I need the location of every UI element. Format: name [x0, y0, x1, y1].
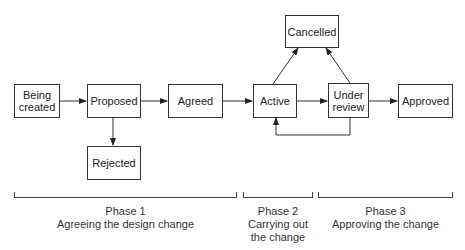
phase-2-description: Carrying out the change — [238, 218, 318, 244]
node-approved: Approved — [398, 84, 453, 118]
phase-3-title: Phase 3 — [318, 205, 453, 218]
edge-active-to-cancelled — [273, 48, 298, 84]
phase-3-label: Phase 3 Approving the change — [318, 205, 453, 231]
phase-2-bracket — [243, 192, 313, 198]
edge-under-review-to-active — [276, 117, 350, 135]
node-proposed: Proposed — [87, 84, 141, 118]
phase-2-title: Phase 2 — [238, 205, 318, 218]
phase-3-bracket — [318, 192, 453, 198]
node-under-review: Under review — [328, 83, 369, 118]
node-rejected: Rejected — [87, 146, 141, 180]
node-agreed: Agreed — [168, 84, 223, 118]
phase-1-bracket — [14, 192, 237, 198]
phase-1-description: Agreeing the design change — [14, 218, 237, 231]
phase-1-title: Phase 1 — [14, 205, 237, 218]
node-active: Active — [253, 84, 297, 118]
node-cancelled: Cancelled — [285, 15, 339, 48]
node-being-created: Being created — [14, 84, 60, 118]
edge-under-review-to-cancelled — [326, 48, 350, 83]
phase-2-label: Phase 2 Carrying out the change — [238, 205, 318, 244]
phase-3-description: Approving the change — [318, 218, 453, 231]
phase-1-label: Phase 1 Agreeing the design change — [14, 205, 237, 231]
